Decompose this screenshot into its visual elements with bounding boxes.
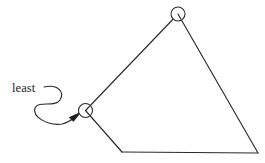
edge-left-to-top	[86, 14, 179, 111]
edge-bottom	[122, 152, 258, 153]
polygon-edges	[86, 14, 259, 153]
annotation-pointer	[35, 86, 81, 124]
polygon-diagram	[0, 0, 265, 163]
edge-top-to-bottom-right	[178, 14, 258, 153]
edge-bottom-left-to-left	[86, 111, 123, 153]
annotation-label-least: least	[12, 82, 35, 95]
figure-canvas: least	[0, 0, 265, 163]
